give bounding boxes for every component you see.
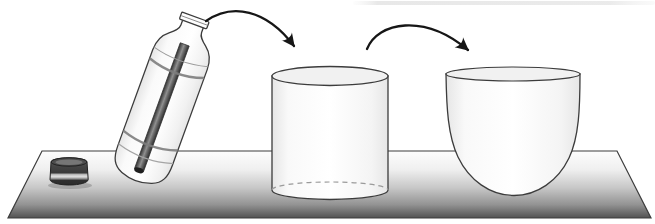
bottle-cap bbox=[48, 158, 92, 189]
transfer-arrow-icon-1 bbox=[206, 11, 294, 46]
bowl-rim bbox=[446, 67, 580, 81]
transfer-arrow-icon-2 bbox=[367, 25, 468, 50]
illustration-canvas bbox=[0, 0, 655, 224]
cap-top-highlight bbox=[56, 159, 83, 165]
cylinder bbox=[272, 67, 388, 200]
cylinder-body bbox=[272, 76, 388, 200]
top-streak bbox=[353, 1, 655, 5]
cylinder-rim bbox=[272, 67, 388, 86]
pouring-diagram bbox=[0, 0, 655, 224]
